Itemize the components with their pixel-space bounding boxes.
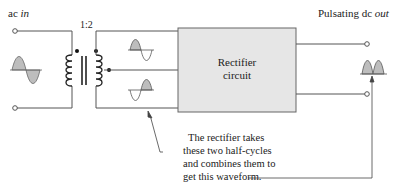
- svg-text:The rectifier takes: The rectifier takes: [188, 132, 264, 143]
- turns-ratio-label: 1:2: [80, 19, 93, 30]
- output-label: Pulsating dc out: [318, 7, 390, 19]
- half-cycle-wave-bottom-icon: [128, 80, 154, 101]
- output-wiring: [296, 42, 369, 97]
- svg-text:these two half-cycles: these two half-cycles: [183, 145, 272, 156]
- annotation-text: The rectifier takes these two half-cycle…: [183, 132, 275, 182]
- half-cycle-wave-top-icon: [128, 40, 154, 61]
- ac-sine-wave-icon: [10, 57, 42, 84]
- rectifier-label-line2: circuit: [223, 69, 251, 81]
- input-label: ac in: [8, 7, 30, 19]
- rectifier-label-line1: Rectifier: [218, 56, 257, 68]
- transformer-icon: [66, 49, 111, 86]
- svg-text:get this waveform.: get this waveform.: [183, 171, 261, 182]
- input-terminal-bottom: [13, 106, 18, 111]
- svg-text:and combines them to: and combines them to: [183, 158, 275, 169]
- input-terminal-top: [13, 29, 18, 34]
- pulsating-dc-wave-icon: [360, 61, 387, 75]
- rectifier-block: Rectifier circuit: [178, 28, 296, 112]
- rectifier-diagram: ac in 1:2: [0, 0, 402, 191]
